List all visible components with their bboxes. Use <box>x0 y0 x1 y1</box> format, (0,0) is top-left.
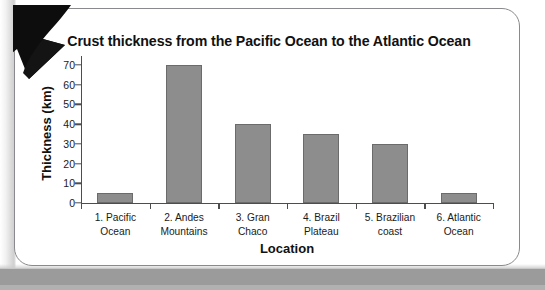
bar <box>97 193 133 203</box>
x-axis-category-label-line: 3. Gran <box>218 211 287 225</box>
x-axis-category-label-line: Ocean <box>81 225 150 239</box>
bar <box>166 65 202 203</box>
y-axis-tick-label: 30 <box>53 139 75 150</box>
bar-chart: Thickness (km) 010203040506070 1. Pacifi… <box>15 9 521 267</box>
y-axis-tick-label: 70 <box>53 60 75 71</box>
bar-series <box>81 65 493 203</box>
x-axis-category-label-line: 5. Brazilian <box>356 211 425 225</box>
x-axis-tick-mark <box>218 203 219 209</box>
chart-card: Crust thickness from the Pacific Ocean t… <box>14 8 520 266</box>
x-axis-category-label: 4. BrazilPlateau <box>287 211 356 238</box>
bar <box>372 144 408 203</box>
y-axis-tick-mark <box>75 84 81 85</box>
x-axis-title: Location <box>81 241 493 256</box>
x-axis-category-label-line: Plateau <box>287 225 356 239</box>
x-axis-tick-mark <box>356 203 357 209</box>
y-axis-tick-mark <box>75 64 81 65</box>
x-axis-category-label: 3. GranChaco <box>218 211 287 238</box>
y-axis-tick-label: 20 <box>53 158 75 169</box>
y-axis-tick-labels: 010203040506070 <box>51 9 75 267</box>
x-axis-tick-mark <box>150 203 151 209</box>
x-axis-category-label-line: 2. Andes <box>150 211 219 225</box>
x-axis-tick-mark <box>493 203 494 209</box>
y-axis-tick-label: 60 <box>53 79 75 90</box>
x-axis-category-label-line: Mountains <box>150 225 219 239</box>
x-axis-category-label: 5. Braziliancoast <box>356 211 425 238</box>
y-axis-tick-label: 50 <box>53 99 75 110</box>
y-axis-tick-label: 40 <box>53 119 75 130</box>
y-axis-tick-mark <box>75 163 81 164</box>
x-axis-category-label-line: coast <box>356 225 425 239</box>
x-axis-category-label: 2. AndesMountains <box>150 211 219 238</box>
page-bottom-band <box>0 268 545 290</box>
bar <box>303 134 339 203</box>
x-axis-category-label-line: 1. Pacific <box>81 211 150 225</box>
x-axis-tick-mark <box>424 203 425 209</box>
bar <box>441 193 477 203</box>
bar <box>235 124 271 203</box>
x-axis-category-label-line: 4. Brazil <box>287 211 356 225</box>
x-axis-category-label-line: 6. Atlantic <box>424 211 493 225</box>
x-axis-tick-mark <box>81 203 82 209</box>
x-axis-tick-mark <box>287 203 288 209</box>
x-axis-category-label: 1. PacificOcean <box>81 211 150 238</box>
y-axis-tick-mark <box>75 143 81 144</box>
y-axis-tick-mark <box>75 183 81 184</box>
x-axis-category-label-line: Chaco <box>218 225 287 239</box>
y-axis-tick-mark <box>75 104 81 105</box>
y-axis-tick-mark <box>75 123 81 124</box>
y-axis-tick-label: 0 <box>53 198 75 209</box>
scanned-page-background: Crust thickness from the Pacific Ocean t… <box>0 0 545 290</box>
y-axis-tick-label: 10 <box>53 178 75 189</box>
x-axis-category-label-line: Ocean <box>424 225 493 239</box>
x-axis-category-label: 6. AtlanticOcean <box>424 211 493 238</box>
